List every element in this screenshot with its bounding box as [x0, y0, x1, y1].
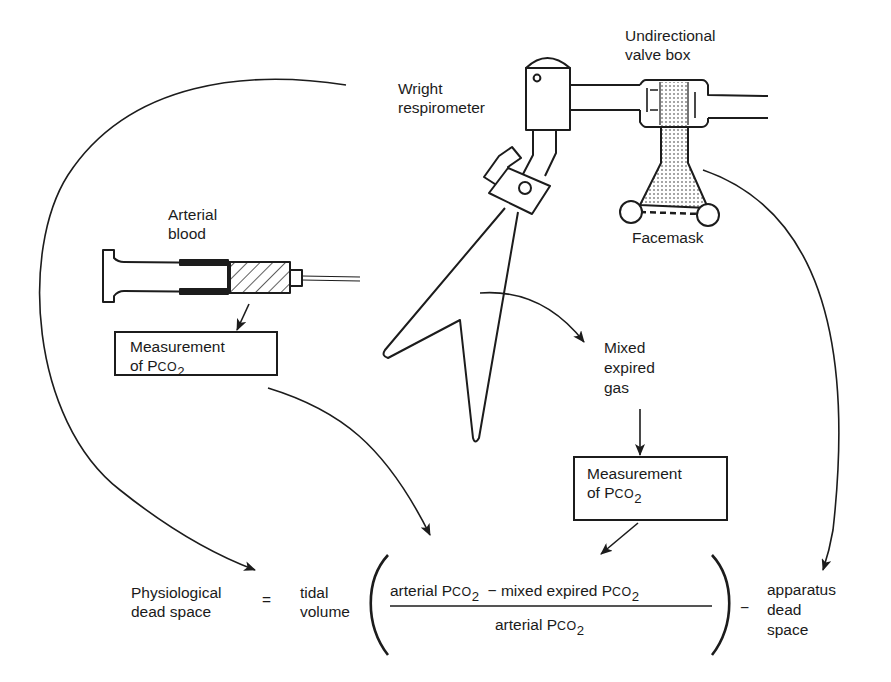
syringe-icon — [103, 250, 360, 302]
arrow-syringe-to-box1 — [237, 304, 249, 330]
label-valve-box: Undirectional valve box — [625, 26, 715, 64]
equation-equals: = — [262, 590, 271, 609]
curve-respirometer-to-gas — [480, 293, 584, 342]
label-arterial-blood: Arterial blood — [168, 205, 217, 243]
equation-numerator: arterial PCO2 − mixed expired PCO2 — [390, 582, 639, 604]
label-mixed-expired-gas: Mixed expired gas — [604, 338, 655, 398]
label-wright-respirometer: Wright respirometer — [398, 79, 485, 117]
box1-line1: Measurement — [130, 337, 225, 356]
valve-box-icon — [640, 80, 768, 127]
arrow-box2-to-equation — [601, 523, 638, 554]
equation-lhs: Physiological dead space — [131, 583, 221, 621]
equation-tidal-volume: tidal volume — [300, 583, 350, 621]
curve-respirometer-to-equation — [40, 79, 346, 570]
label-facemask: Facemask — [632, 228, 704, 247]
equation-minus: − — [740, 598, 749, 617]
equation-denominator: arterial PCO2 — [495, 616, 584, 638]
equation-apparatus-dead-space: apparatus dead space — [767, 580, 836, 640]
curve-box1-to-equation — [268, 388, 430, 535]
facemask-icon — [620, 127, 719, 226]
arterial-measurement-box: Measurement of PCO2 — [114, 331, 278, 376]
gas-measurement-box: Measurement of PCO2 — [573, 456, 728, 521]
left-parenthesis — [371, 555, 388, 655]
right-parenthesis — [712, 555, 729, 655]
box2-line2: of PCO2 — [587, 483, 682, 508]
box1-line2: of PCO2 — [130, 356, 225, 381]
box2-line1: Measurement — [587, 464, 682, 483]
